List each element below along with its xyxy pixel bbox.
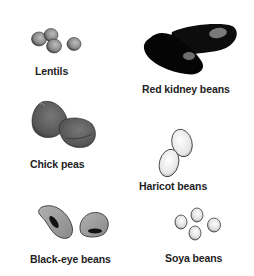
chick-peas-icon [32, 101, 95, 147]
red-kidney-beans-icon [144, 24, 237, 74]
haricot-beans-label: Haricot beans [139, 180, 207, 192]
haricot-beans-icon [156, 127, 195, 179]
illustration-art [0, 0, 254, 276]
chick-peas-label: Chick peas [30, 158, 84, 170]
red-kidney-beans-label: Red kidney beans [142, 83, 230, 95]
lentils-label: Lentils [35, 65, 68, 77]
pulses-illustration: Lentils Red kidney beans Chick peas Hari… [0, 0, 254, 276]
lentils-icon [32, 29, 82, 54]
black-eye-beans-icon [39, 206, 109, 239]
black-eye-beans-label: Black-eye beans [30, 253, 111, 265]
soya-beans-icon [175, 208, 221, 240]
soya-beans-label: Soya beans [165, 252, 222, 264]
